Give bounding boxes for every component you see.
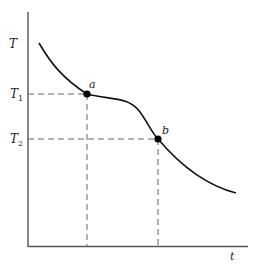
cooling-curve	[39, 43, 236, 193]
x-axis-label: t	[230, 250, 235, 263]
point-b	[154, 135, 161, 142]
point-b-label: b	[162, 124, 169, 137]
y-axis-label: T	[9, 37, 18, 51]
t1-label: T1	[10, 87, 23, 103]
point-a-label: a	[89, 78, 96, 91]
temperature-time-diagram: T t T1 T2 a b	[0, 0, 260, 267]
point-a	[83, 90, 90, 97]
t2-label: T2	[10, 132, 23, 148]
